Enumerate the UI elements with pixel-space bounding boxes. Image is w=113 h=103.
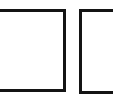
empty-box-left-interior xyxy=(0,12,63,89)
image-canvas xyxy=(0,0,113,103)
empty-box-left[interactable] xyxy=(0,9,66,92)
empty-box-right[interactable] xyxy=(79,9,113,94)
empty-box-right-interior xyxy=(82,12,113,91)
